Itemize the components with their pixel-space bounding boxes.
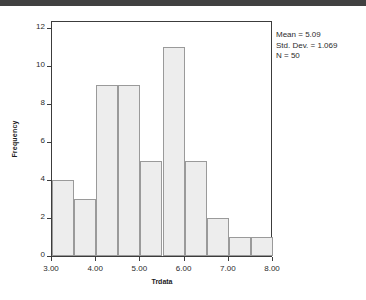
x-tick-label: 5.00 xyxy=(132,264,148,273)
histogram-bar xyxy=(118,85,140,256)
x-tick-mark xyxy=(139,257,140,261)
x-tick-mark xyxy=(51,257,52,261)
y-tick-label: 2 xyxy=(41,212,45,221)
x-tick-mark xyxy=(95,257,96,261)
plot-area xyxy=(52,22,271,256)
x-axis-title: Trdata xyxy=(151,278,172,285)
x-tick-label: 4.00 xyxy=(87,264,103,273)
x-tick-mark xyxy=(272,257,273,261)
stat-mean: Mean = 5.09 xyxy=(276,30,337,41)
histogram-bar xyxy=(74,199,96,256)
histogram-bar xyxy=(140,161,162,256)
plot-frame xyxy=(51,21,272,257)
x-tick-mark xyxy=(184,257,185,261)
histogram-bar xyxy=(96,85,118,256)
x-axis: 3.004.005.006.007.008.00 Trdata xyxy=(51,257,273,297)
histogram-bar xyxy=(207,218,229,256)
stat-n: N = 50 xyxy=(276,51,337,62)
y-tick-label: 8 xyxy=(41,98,45,107)
x-tick-label: 8.00 xyxy=(264,264,280,273)
top-banner xyxy=(0,0,366,6)
y-tick-label: 6 xyxy=(41,136,45,145)
histogram-bar xyxy=(185,161,207,256)
statistics-annotation: Mean = 5.09 Std. Dev. = 1.069 N = 50 xyxy=(276,30,337,62)
histogram-bar xyxy=(229,237,251,256)
y-tick-label: 10 xyxy=(36,60,45,69)
stat-std-dev: Std. Dev. = 1.069 xyxy=(276,41,337,52)
x-tick-label: 3.00 xyxy=(43,264,59,273)
x-tick-label: 6.00 xyxy=(176,264,192,273)
y-tick-label: 0 xyxy=(41,250,45,259)
y-tick-label: 4 xyxy=(41,174,45,183)
x-tick-label: 7.00 xyxy=(220,264,236,273)
histogram-bar xyxy=(52,180,74,256)
histogram-bar xyxy=(163,47,185,256)
x-tick-mark xyxy=(228,257,229,261)
y-axis-title: Frequency xyxy=(11,120,18,157)
y-tick-label: 12 xyxy=(36,22,45,31)
y-axis: Frequency 024681012 xyxy=(0,21,51,258)
bar-series xyxy=(52,22,271,256)
histogram-page: Frequency 024681012 3.004.005.006.007.00… xyxy=(0,0,366,300)
histogram-bar xyxy=(251,237,273,256)
